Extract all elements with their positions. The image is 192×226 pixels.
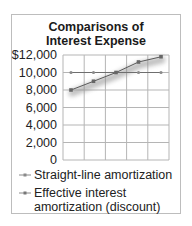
legend-label-line-2: amortization (discount) <box>34 200 160 214</box>
square-marker-icon <box>137 60 141 64</box>
diamond-marker-icon <box>137 71 140 74</box>
square-marker-line-icon <box>19 191 31 195</box>
square-marker-icon <box>69 88 73 92</box>
diamond-marker-icon <box>92 71 95 74</box>
diamond-marker-line-icon <box>19 173 31 177</box>
legend-label-line-1: Effective interest <box>34 186 126 200</box>
square-marker-icon <box>92 79 96 83</box>
square-marker-icon <box>159 55 163 59</box>
diamond-marker-icon <box>159 71 162 74</box>
diamond-marker-icon <box>69 71 72 74</box>
square-marker-icon <box>114 71 118 75</box>
legend-label: Straight-line amortization <box>34 168 172 182</box>
